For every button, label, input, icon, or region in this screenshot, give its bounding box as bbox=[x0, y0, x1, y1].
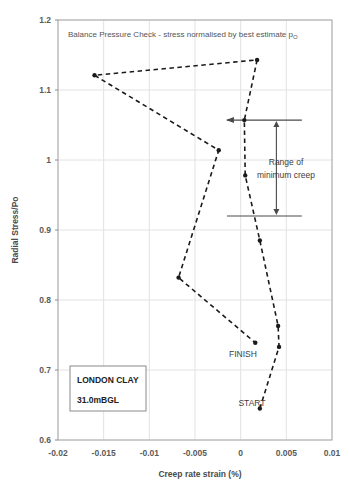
chart-container: 0.60.70.80.911.11.2 -0.02-0.015-0.01-0.0… bbox=[0, 0, 349, 487]
y-tick-label: 1.2 bbox=[39, 15, 51, 25]
start-point-label: START bbox=[238, 398, 265, 408]
y-tick-label: 0.6 bbox=[39, 435, 51, 445]
info-box-line1: LONDON CLAY bbox=[77, 375, 139, 385]
range-label-line2: minimum creep bbox=[257, 170, 315, 180]
range-label-line1: Range of bbox=[269, 157, 304, 167]
data-point-marker bbox=[258, 238, 262, 242]
data-point-marker bbox=[217, 148, 221, 152]
data-point-marker bbox=[253, 341, 257, 345]
data-point-marker bbox=[242, 118, 246, 122]
info-box-line2: 31.0mBGL bbox=[77, 395, 119, 405]
chart-title: Balance Pressure Check - stress normalis… bbox=[68, 30, 298, 40]
y-tick-label: 0.7 bbox=[39, 365, 51, 375]
data-point-marker bbox=[243, 173, 247, 177]
data-point-marker bbox=[255, 58, 259, 62]
y-tick-label: 1.1 bbox=[39, 85, 51, 95]
y-tick-label: 0.8 bbox=[39, 295, 51, 305]
x-tick-label: 0 bbox=[238, 448, 243, 458]
x-tick-label: -0.015 bbox=[92, 448, 116, 458]
balance-pressure-check-chart: 0.60.70.80.911.11.2 -0.02-0.015-0.01-0.0… bbox=[0, 0, 349, 487]
x-tick-label: 0.005 bbox=[276, 448, 298, 458]
y-axis-title: Radial Stress/Po bbox=[10, 196, 20, 263]
info-box: LONDON CLAY 31.0mBGL bbox=[70, 366, 146, 411]
x-axis-tick-labels: -0.02-0.015-0.01-0.00500.0050.01 bbox=[48, 448, 340, 458]
x-axis-title: Creep rate strain (%) bbox=[158, 469, 241, 479]
y-tick-label: 1 bbox=[46, 155, 51, 165]
data-point-marker bbox=[92, 73, 96, 77]
data-point-marker bbox=[176, 275, 180, 279]
data-point-marker bbox=[277, 345, 281, 349]
data-point-marker bbox=[276, 324, 280, 328]
x-tick-label: -0.02 bbox=[48, 448, 68, 458]
chart-background bbox=[0, 0, 349, 487]
y-tick-label: 0.9 bbox=[39, 225, 51, 235]
x-tick-label: -0.005 bbox=[183, 448, 207, 458]
x-tick-label: -0.01 bbox=[140, 448, 160, 458]
x-tick-label: 0.01 bbox=[324, 448, 341, 458]
finish-point-label: FINISH bbox=[229, 349, 257, 359]
